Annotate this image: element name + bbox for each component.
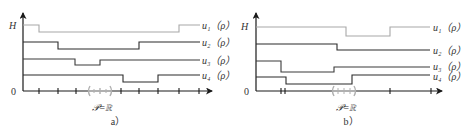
curve-u3 [23,59,200,65]
curve-u1 [256,27,430,36]
curve-u2 [256,44,430,50]
curve-u4 [23,75,200,82]
interval-bracket [89,86,112,96]
curve-label-u1: u₁（ρ） [202,20,235,31]
curve-u4 [256,75,430,84]
curve-label-u4: u₄（ρ） [202,70,235,81]
origin-label: 0 [11,86,16,97]
panel-b: H 0 u₁（ρ） u₂（ρ） u₃（ρ） u₄（ρ） 𝒫=ℝ [240,13,466,127]
interval-bracket [333,86,356,96]
y-axis-label-h: H [240,21,249,32]
domain-label: 𝒫=ℝ [92,102,114,113]
origin-label: 0 [244,86,249,97]
curve-label-u2: u₂（ρ） [433,45,466,56]
curve-u1 [23,25,200,32]
curve-label-u3: u₃（ρ） [202,55,235,66]
curve-u2 [23,42,200,49]
curve-label-u2: u₂（ρ） [202,37,235,48]
curve-label-u1: u₁（ρ） [433,22,466,33]
domain-label: 𝒫=ℝ [336,102,358,113]
panel-caption-a: a） [111,116,125,127]
curve-u3 [256,61,430,72]
panel-caption-b: b） [344,116,359,127]
panel-a: H 0 u₁（ρ） u₂（ρ） u₃（ρ） [8,13,235,127]
diagram-canvas: H 0 u₁（ρ） u₂（ρ） u₃（ρ） [0,0,474,135]
curve-label-u4: u₄（ρ） [433,71,466,82]
y-axis-label-h: H [8,20,17,31]
